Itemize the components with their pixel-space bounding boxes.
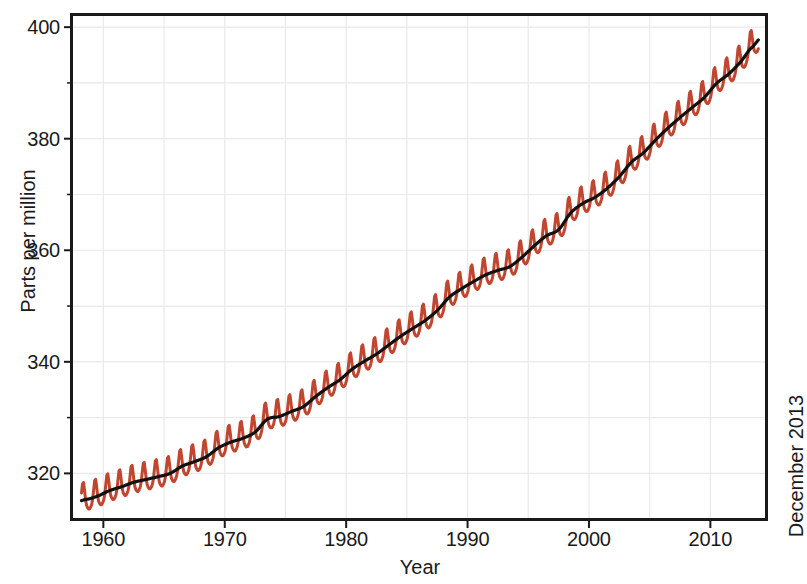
x-tick-label: 1960 — [58, 528, 148, 550]
plot-canvas — [73, 16, 765, 518]
x-axis-tick-labels: 196019701980199020002010 — [0, 528, 807, 554]
y-tick-label: 340 — [10, 352, 60, 372]
monthly-co2-line — [82, 30, 759, 509]
plot-area — [70, 13, 768, 521]
x-tick-label: 1970 — [180, 528, 270, 550]
x-axis-title: Year — [375, 556, 465, 578]
x-tick-label: 1980 — [301, 528, 391, 550]
co2-trend-line — [82, 40, 759, 501]
y-tick-label: 400 — [10, 17, 60, 37]
x-tick-label: 2010 — [665, 528, 755, 550]
y-axis-title: Parts per million — [17, 141, 39, 341]
date-annotation: December 2013 — [785, 376, 807, 556]
y-tick-label: 320 — [10, 463, 60, 483]
co2-keeling-curve-figure: 400380360340320 Parts per million 196019… — [0, 0, 807, 584]
data-series-layer — [73, 16, 765, 518]
x-tick-label: 1990 — [423, 528, 513, 550]
x-tick-label: 2000 — [544, 528, 634, 550]
